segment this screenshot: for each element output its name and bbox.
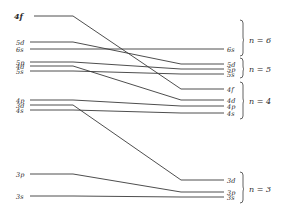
right-label-3d: 3d [227,177,235,185]
left-label-3s: 3s [16,193,24,201]
right-label-5s: 5s [227,71,235,79]
right-label-4f: 4f [226,86,235,94]
right-level-labels: 6s5d5p5s4f4d4p4s3d3p3s [226,46,236,202]
shell-label: n = 4 [249,97,271,106]
left-label-4f: 4f [14,11,25,21]
level-line-4f [34,16,224,89]
energy-level-diagram: 4f5d6s5p4d5s4p3d4s3p3s 6s5d5p5s4f4d4p4s3… [0,0,283,216]
right-label-3s: 3s [227,194,235,202]
shell-braces: n = 6n = 5n = 4n = 3 [240,20,271,203]
left-label-3p: 3p [16,171,25,179]
shell-brace-0 [240,20,244,56]
level-line-4s [30,110,224,113]
level-line-5p [30,62,224,69]
level-line-3d [30,105,224,180]
shell-label: n = 6 [249,36,271,45]
shell-brace-1 [240,58,244,78]
right-label-4s: 4s [226,110,235,118]
left-label-6s: 6s [16,46,24,54]
level-line-5s [30,71,224,74]
shell-brace-3 [240,172,244,203]
right-label-6s: 6s [227,46,235,54]
shell-label: n = 5 [249,65,271,74]
shell-brace-2 [240,82,244,119]
level-line-3p [30,174,224,192]
shell-label: n = 3 [249,185,271,194]
level-line-3s [30,196,224,197]
level-line-5d [30,42,224,64]
left-label-4s: 4s [15,107,24,115]
correlation-lines [30,16,224,197]
left-label-5s: 5s [16,68,24,76]
left-level-labels: 4f5d6s5p4d5s4p3d4s3p3s [14,11,25,201]
